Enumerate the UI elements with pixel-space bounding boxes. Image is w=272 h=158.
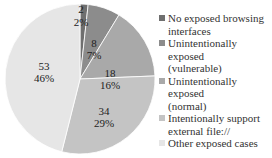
slice-percent-label: 16% <box>100 79 120 91</box>
slice-percent-label: 29% <box>94 117 114 129</box>
legend-label: Other exposed cases <box>168 137 272 150</box>
legend-swatch <box>159 15 165 21</box>
slice-percent-label: 2% <box>74 16 89 28</box>
legend-item: Unintentionally exposed(vulnerable) <box>158 37 272 75</box>
legend-swatch <box>159 115 165 121</box>
slice-value-label: 18 <box>105 67 117 79</box>
legend-label: Intentionally support <box>168 112 272 125</box>
pie-chart: 22%87%1816%3429%5346% <box>0 0 160 158</box>
slice-percent-label: 7% <box>87 49 102 61</box>
legend-swatch <box>159 40 165 46</box>
slice-value-label: 8 <box>91 37 97 49</box>
legend-label: (vulnerable) <box>168 62 272 75</box>
legend-label: Unintentionally exposed <box>168 37 272 62</box>
slice-value-label: 34 <box>99 105 111 117</box>
legend-label: No exposed browsing <box>168 12 272 25</box>
slice-value-label: 2 <box>78 3 84 15</box>
legend-item: No exposed browsinginterfaces <box>158 12 272 37</box>
legend-label: interfaces <box>168 25 272 38</box>
legend: No exposed browsinginterfacesUnintention… <box>158 12 272 150</box>
legend-label: Unintentionally exposed <box>168 75 272 100</box>
legend-label: external file:// <box>168 125 272 138</box>
legend-swatch <box>159 140 165 146</box>
slice-value-label: 53 <box>39 60 51 72</box>
legend-item: Other exposed cases <box>158 137 272 150</box>
legend-item: Unintentionally exposed(normal) <box>158 75 272 113</box>
legend-label: (normal) <box>168 100 272 113</box>
legend-swatch <box>159 78 165 84</box>
legend-item: Intentionally supportexternal file:// <box>158 112 272 137</box>
slice-percent-label: 46% <box>34 72 54 84</box>
